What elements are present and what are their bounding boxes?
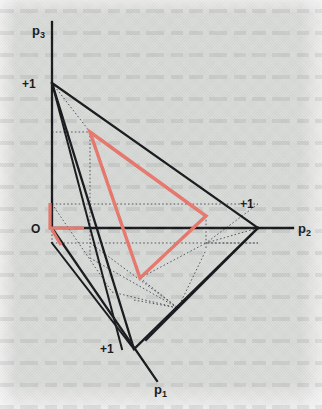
simplex-edge-p1-p3 [52, 83, 134, 349]
dotted-line-fan-g [178, 250, 206, 308]
tick-label-p3: +1 [22, 77, 36, 91]
dotted-line-fan-d [134, 300, 178, 308]
origin-corner-highlight [50, 203, 84, 245]
simplex-edge-p3-p2 [52, 83, 258, 228]
figure-container: p3 p2 p1 +1 +1 +1 O [0, 0, 322, 409]
guide-line-p3-to-lower-left [52, 83, 122, 349]
simplex-diagram: p3 p2 p1 +1 +1 +1 O [0, 0, 322, 409]
origin-corner-polyline [50, 203, 84, 228]
dotted-line-fan-c [140, 278, 178, 308]
inscribed-triangle-path [90, 132, 206, 278]
origin-label: O [31, 222, 40, 236]
inscribed-triangle [90, 132, 206, 278]
axis-label-p1: p1 [154, 382, 167, 399]
guide-line-p2-to-p1-inner [146, 228, 258, 340]
dotted-construction-lines [52, 83, 258, 349]
axis-label-p2: p2 [298, 221, 311, 238]
tick-label-p1: +1 [100, 342, 114, 356]
axis-label-p3: p3 [32, 23, 45, 40]
guide-line-origin-to-p1-extended [52, 243, 134, 349]
tick-label-p2: +1 [240, 197, 254, 211]
